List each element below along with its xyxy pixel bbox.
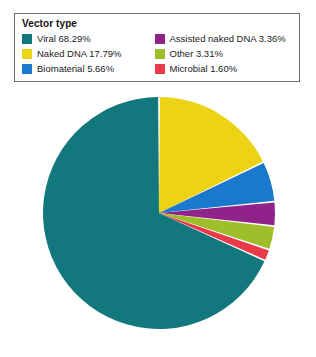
legend-item-assisted-naked-dna[interactable]: Assisted naked DNA 3.36% <box>155 32 293 45</box>
legend-label-biomaterial: Biomaterial 5.66% <box>37 63 114 74</box>
legend-swatch-naked-dna-icon <box>22 49 32 59</box>
legend-item-microbial[interactable]: Microbial 1.60% <box>155 62 293 75</box>
pie-svg: Naked DNA 17.79%Biomaterial 5.66%Assiste… <box>41 94 277 334</box>
legend-column-left: Viral 68.29% Naked DNA 17.79% Biomateria… <box>22 32 155 75</box>
legend-label-microbial: Microbial 1.60% <box>170 63 238 74</box>
pie-slices: Naked DNA 17.79%Biomaterial 5.66%Assiste… <box>43 97 275 329</box>
legend-label-naked-dna: Naked DNA 17.79% <box>37 48 122 59</box>
legend-swatch-biomaterial-icon <box>22 64 32 74</box>
legend-swatch-microbial-icon <box>155 64 165 74</box>
legend-title: Vector type <box>22 18 293 30</box>
legend-columns: Viral 68.29% Naked DNA 17.79% Biomateria… <box>22 32 293 75</box>
legend-item-other[interactable]: Other 3.31% <box>155 47 293 60</box>
legend-label-assisted-naked-dna: Assisted naked DNA 3.36% <box>170 33 286 44</box>
legend-item-biomaterial[interactable]: Biomaterial 5.66% <box>22 62 155 75</box>
legend-swatch-assisted-naked-dna-icon <box>155 34 165 44</box>
legend-swatch-other-icon <box>155 49 165 59</box>
legend-item-viral[interactable]: Viral 68.29% <box>22 32 155 45</box>
legend-item-naked-dna[interactable]: Naked DNA 17.79% <box>22 47 155 60</box>
legend-label-other: Other 3.31% <box>170 48 223 59</box>
legend-label-viral: Viral 68.29% <box>37 33 91 44</box>
pie-plot-area: Naked DNA 17.79%Biomaterial 5.66%Assiste… <box>41 94 277 334</box>
legend-swatch-viral-icon <box>22 34 32 44</box>
pie-chart-figure: Vector type Viral 68.29% Naked DNA 17.79… <box>0 0 316 357</box>
legend-column-right: Assisted naked DNA 3.36% Other 3.31% Mic… <box>155 32 293 75</box>
legend: Vector type Viral 68.29% Naked DNA 17.79… <box>14 13 300 82</box>
